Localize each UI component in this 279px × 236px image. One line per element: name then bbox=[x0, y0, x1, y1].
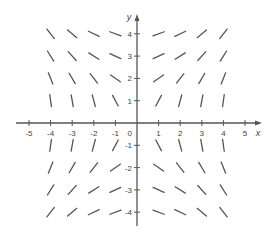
slope-segment bbox=[113, 95, 119, 106]
slope-segment bbox=[110, 32, 121, 36]
slope-segment bbox=[71, 95, 73, 107]
slope-segment bbox=[175, 210, 186, 215]
slope-segment bbox=[156, 140, 162, 151]
slope-segment bbox=[154, 164, 164, 171]
x-tick-label: -3 bbox=[69, 129, 77, 138]
y-tick-label: -4 bbox=[125, 208, 133, 217]
slope-segment bbox=[197, 208, 206, 216]
slope-segment bbox=[92, 95, 95, 107]
slope-segment bbox=[175, 31, 186, 36]
y-tick-label: 3 bbox=[128, 52, 133, 61]
slope-segment bbox=[71, 139, 73, 151]
slope-segment bbox=[223, 139, 225, 151]
slope-segment bbox=[68, 208, 77, 216]
x-axis-label: x bbox=[255, 128, 261, 138]
slope-segment bbox=[220, 51, 226, 61]
slope-segment bbox=[69, 162, 75, 172]
x-tick-label: 5 bbox=[243, 129, 248, 138]
slope-segment bbox=[179, 95, 182, 107]
slope-segment bbox=[47, 29, 54, 38]
y-tick-label: -2 bbox=[125, 164, 133, 173]
slope-segment bbox=[68, 185, 76, 194]
slope-segment bbox=[156, 95, 162, 106]
slope-segment bbox=[110, 54, 121, 59]
slope-segment bbox=[113, 140, 119, 151]
slope-segment bbox=[175, 187, 185, 193]
slope-segment bbox=[221, 73, 225, 84]
slope-segment bbox=[175, 53, 185, 59]
slope-segment bbox=[89, 53, 99, 59]
slope-segment bbox=[110, 210, 121, 214]
slope-segment bbox=[92, 140, 95, 152]
slope-segment bbox=[177, 74, 184, 83]
slope-segment bbox=[90, 74, 97, 83]
slope-segment bbox=[153, 54, 164, 59]
slope-segment bbox=[110, 164, 120, 171]
slope-segment bbox=[201, 95, 203, 107]
x-tick-label: 4 bbox=[221, 129, 226, 138]
slope-segment bbox=[68, 30, 77, 38]
slope-segment bbox=[154, 75, 164, 82]
slope-segment bbox=[223, 95, 225, 107]
slope-segment bbox=[88, 210, 99, 215]
slope-field-diagram: -5-4-3-2-112345-4-3-2-112340xy bbox=[0, 0, 279, 236]
slope-segment bbox=[68, 52, 76, 61]
slope-segment bbox=[89, 187, 99, 193]
origin-label: 0 bbox=[128, 129, 133, 138]
slope-segment bbox=[179, 140, 182, 152]
x-tick-label: -1 bbox=[112, 129, 120, 138]
slope-segment bbox=[153, 187, 164, 192]
y-tick-label: -1 bbox=[125, 141, 133, 150]
slope-segment bbox=[48, 162, 52, 173]
slope-segment bbox=[47, 207, 54, 216]
slope-segment bbox=[220, 207, 227, 216]
x-axis-arrow-icon bbox=[255, 121, 262, 126]
x-tick-label: 1 bbox=[156, 129, 161, 138]
x-tick-label: -2 bbox=[90, 129, 98, 138]
slope-segment bbox=[110, 75, 120, 82]
slope-segment bbox=[69, 73, 75, 83]
slope-segment bbox=[220, 29, 227, 38]
slope-segment bbox=[50, 95, 52, 107]
slope-segment bbox=[198, 52, 206, 61]
slope-segment bbox=[153, 32, 164, 36]
axis-labels: -5-4-3-2-112345-4-3-2-112340xy bbox=[25, 12, 260, 217]
slope-segment bbox=[199, 73, 205, 83]
slope-segment bbox=[220, 185, 226, 195]
slope-segment bbox=[221, 162, 225, 173]
y-axis-arrow-icon bbox=[135, 14, 140, 21]
y-axis-label: y bbox=[126, 12, 132, 22]
slope-segment bbox=[47, 51, 53, 61]
y-tick-label: 2 bbox=[128, 74, 133, 83]
y-tick-label: -3 bbox=[125, 186, 133, 195]
slope-segment bbox=[48, 73, 52, 84]
x-tick-label: -4 bbox=[47, 129, 55, 138]
slope-segment bbox=[90, 163, 97, 172]
x-tick-label: -5 bbox=[25, 129, 33, 138]
slope-segment bbox=[110, 187, 121, 192]
x-tick-label: 2 bbox=[178, 129, 183, 138]
slope-segment bbox=[199, 162, 205, 172]
y-tick-label: 1 bbox=[128, 97, 133, 106]
slope-segment bbox=[177, 163, 184, 172]
y-tick-label: 4 bbox=[128, 30, 133, 39]
slope-segment bbox=[198, 185, 206, 194]
slope-segment bbox=[47, 185, 53, 195]
slope-segment bbox=[88, 31, 99, 36]
slope-segment bbox=[50, 139, 52, 151]
slope-segment bbox=[197, 30, 206, 38]
slope-segment bbox=[201, 139, 203, 151]
x-tick-label: 3 bbox=[200, 129, 205, 138]
slope-segment bbox=[153, 210, 164, 214]
axes bbox=[16, 14, 262, 226]
